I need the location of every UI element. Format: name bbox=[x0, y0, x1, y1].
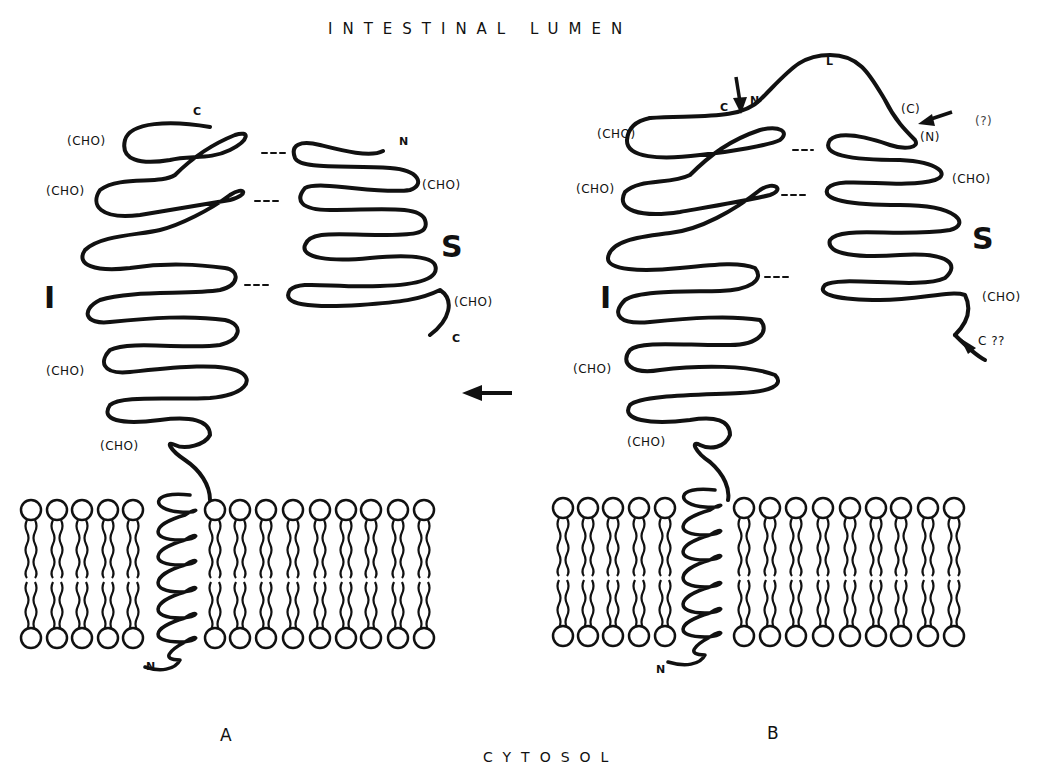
panel-b-cho-label: (CHO) bbox=[597, 128, 636, 140]
panel-b-s-cho-label: (CHO) bbox=[952, 173, 991, 185]
panel-b-i-c-terminus: C bbox=[720, 102, 728, 113]
panel-b-linker-n-label: N bbox=[750, 95, 759, 106]
panel-b-s-cho-label: (CHO) bbox=[982, 291, 1021, 303]
panel-b-cho-label: (CHO) bbox=[573, 363, 612, 375]
panel-b-subunit-i-label: I bbox=[600, 283, 611, 313]
panel-a-arrow-icon bbox=[462, 385, 512, 401]
panel-a-s-cho-label: (CHO) bbox=[454, 296, 493, 308]
panel-a-subunit-i-label: I bbox=[44, 283, 55, 313]
panel-a-i-n-terminus: N bbox=[146, 661, 155, 672]
panel-b-s-n-terminus: (N) bbox=[920, 131, 940, 143]
panel-a-s-n-terminus: N bbox=[399, 136, 408, 147]
panel-b-membrane bbox=[553, 498, 964, 646]
panel-b-question-label: (?) bbox=[975, 115, 992, 127]
panel-b-i-n-terminus: N bbox=[656, 664, 665, 675]
panel-b-s-c-terminus: C ?? bbox=[978, 335, 1005, 347]
panel-a-subunit-s-label: S bbox=[441, 232, 463, 262]
panel-a-cho-label: (CHO) bbox=[46, 185, 85, 197]
panel-a-s-c-terminus: C bbox=[452, 333, 460, 344]
panel-a-i-c-terminus: C bbox=[193, 106, 201, 117]
panel-a-cho-label: (CHO) bbox=[67, 135, 106, 147]
panel-b-linker-c-label: (C) bbox=[901, 103, 920, 115]
panel-b-cho-label: (CHO) bbox=[576, 183, 615, 195]
panel-b-linker-label: L bbox=[826, 56, 833, 67]
intestinal-lumen-label: INTESTINAL LUMEN bbox=[328, 22, 632, 37]
cytosol-label: CYTOSOL bbox=[483, 750, 618, 764]
panel-b-cleavage-arrow-2-icon bbox=[918, 112, 952, 126]
panel-a-cho-label: (CHO) bbox=[100, 440, 139, 452]
panel-b-subunit-s-label: S bbox=[972, 224, 994, 254]
panel-b-drawing bbox=[608, 55, 985, 665]
panel-b-label: B bbox=[767, 725, 779, 742]
panel-a-drawing bbox=[82, 123, 448, 669]
panel-a-membrane bbox=[21, 500, 434, 648]
panel-b-cho-label: (CHO) bbox=[627, 436, 666, 448]
panel-a-subunit-s-chain bbox=[288, 143, 449, 335]
panel-a-helix bbox=[145, 494, 196, 669]
panel-a-cho-label: (CHO) bbox=[46, 365, 85, 377]
diagram-canvas bbox=[0, 0, 1041, 775]
panel-a-s-cho-label: (CHO) bbox=[422, 179, 461, 191]
panel-a-label: A bbox=[220, 727, 232, 744]
